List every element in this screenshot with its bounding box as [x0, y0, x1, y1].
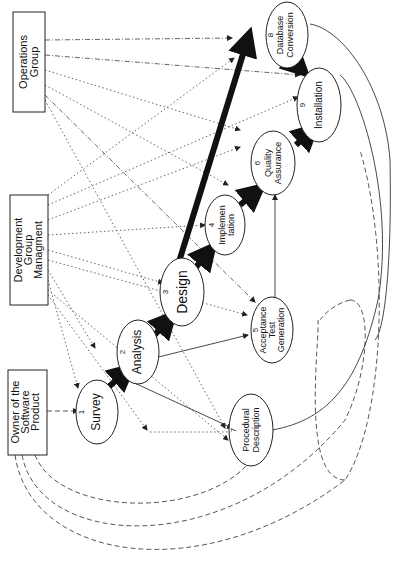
node-implementation: 4 Implemen tation: [205, 195, 245, 255]
node-label: Procedural: [241, 408, 251, 452]
actor-label: Product: [29, 393, 41, 431]
actor-development-group: Development Group Managment: [10, 195, 48, 305]
node-procedural-description: 7 Procedural Description: [229, 394, 273, 466]
node-number: 9: [298, 102, 307, 107]
actor-label: Group: [28, 47, 40, 78]
actor-operations-group: Operations Group: [13, 12, 45, 112]
node-number: 3: [161, 289, 170, 294]
actor-label: Managment: [32, 221, 44, 279]
node-database-conversion: 8 Database Conversion: [266, 2, 308, 68]
node-label: Description: [251, 407, 261, 452]
node-survey: 1 Survey: [76, 380, 118, 444]
node-number: 7: [229, 427, 238, 432]
node-analysis: 2 Analysis: [117, 320, 159, 384]
actor-owner: Owner of the Software Product: [8, 370, 47, 455]
node-number: 8: [266, 32, 275, 37]
node-label: Design: [174, 270, 190, 314]
node-number: 4: [207, 222, 216, 227]
node-label: Conversion: [285, 12, 295, 58]
node-acceptance-test-generation: 5 Acceptance Test Generation: [251, 297, 293, 363]
node-label: Analysis: [130, 330, 144, 375]
node-label: Survey: [89, 393, 103, 430]
node-number: 1: [77, 409, 86, 414]
node-quality-assurance: 6 Quality Assurance: [251, 131, 295, 195]
node-label: tation: [226, 214, 236, 236]
node-label: Database: [275, 16, 285, 55]
node-design: 3 Design: [160, 258, 204, 326]
node-label: Generation: [276, 308, 286, 353]
node-label: Assurance: [273, 142, 283, 185]
node-label: Quality: [263, 148, 273, 177]
process-diagram: Operations Group Development Group Manag…: [0, 0, 395, 579]
node-number: 2: [118, 349, 127, 354]
node-installation: 9 Installation: [297, 68, 341, 142]
node-number: 6: [253, 160, 262, 165]
node-label: Installation: [313, 81, 324, 129]
secondary-flows: [128, 24, 390, 430]
